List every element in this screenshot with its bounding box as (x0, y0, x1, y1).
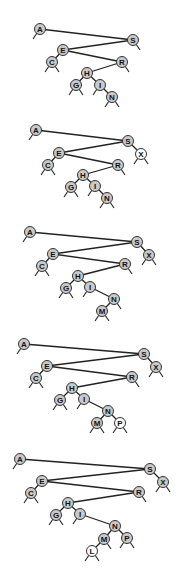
tree-node-E: E (42, 361, 53, 372)
node-key-label: C (33, 374, 39, 383)
null-link-stub (55, 66, 59, 72)
tree-node-N: N (103, 406, 114, 417)
tree-node-A: A (15, 454, 26, 465)
null-link-stub (121, 169, 125, 175)
tree-node-N: N (109, 294, 120, 305)
null-link-stub (34, 497, 38, 503)
tree-node-S: S (145, 464, 156, 475)
node-key-label: I (79, 510, 81, 519)
tree-node-E: E (48, 249, 59, 260)
node-key-label: S (125, 137, 131, 146)
tree-node-C: C (26, 488, 37, 499)
node-key-label: M (99, 307, 106, 316)
tree-node-N: N (107, 92, 118, 103)
node-key-label: P (124, 534, 130, 543)
node-key-label: N (111, 295, 117, 304)
tree-node-H: H (82, 68, 93, 79)
null-link-stub (115, 101, 119, 107)
null-link-stub (95, 555, 99, 561)
node-key-label: C (39, 262, 45, 271)
tree-node-C: C (47, 57, 58, 68)
node-key-label: X (146, 251, 152, 260)
tree-snapshot-2: ASXECRHGIN (29, 125, 148, 209)
null-link-stub (142, 496, 146, 502)
null-link-stub (79, 89, 83, 95)
tree-node-R: R (120, 259, 131, 270)
tree-node-P: P (115, 418, 126, 429)
tree-node-C: C (31, 373, 42, 384)
tree-node-P: P (122, 533, 133, 544)
node-key-label: N (112, 522, 118, 531)
null-link-stub (130, 542, 134, 548)
node-key-label: A (37, 25, 43, 34)
tree-edge (63, 50, 122, 62)
null-link-stub (74, 191, 78, 197)
tree-node-G: G (66, 182, 77, 193)
tree-node-X: X (136, 149, 147, 160)
tree-node-R: R (113, 160, 124, 171)
tree-edge (20, 459, 150, 469)
node-key-label: R (115, 161, 121, 170)
node-key-label: A (27, 228, 33, 237)
tree-node-G: G (71, 80, 82, 91)
tree-node-G: G (61, 283, 72, 294)
tree-node-C: C (43, 160, 54, 171)
tree-node-I: I (85, 282, 96, 293)
node-key-label: E (50, 250, 56, 259)
node-key-label: C (28, 489, 34, 498)
tree-edge (24, 344, 144, 354)
null-link-stub (73, 518, 77, 524)
null-link-stub (59, 519, 63, 525)
node-key-label: N (105, 407, 111, 416)
node-key-label: R (119, 58, 125, 67)
tree-edge (40, 29, 133, 40)
tree-node-S: S (132, 237, 143, 248)
node-key-label: C (49, 58, 55, 67)
node-key-label: I (83, 395, 85, 404)
null-link-stub (166, 486, 170, 492)
tree-node-C: C (37, 261, 48, 272)
node-key-label: N (104, 194, 110, 203)
node-key-label: R (136, 488, 142, 497)
null-link-stub (123, 427, 127, 433)
null-link-stub (152, 259, 156, 265)
tree-node-M: M (92, 418, 103, 429)
node-key-label: P (117, 419, 123, 428)
tree-node-H: H (73, 271, 84, 282)
node-key-label: E (56, 149, 62, 158)
tree-snapshot-5: ASXECRHGINMPL (13, 454, 170, 562)
tree-edge (47, 366, 132, 377)
tree-edge (78, 264, 125, 276)
tree-node-N: N (110, 521, 121, 532)
node-key-label: I (89, 283, 91, 292)
tree-node-R: R (117, 57, 128, 68)
node-key-label: H (69, 384, 75, 393)
node-key-label: A (17, 455, 23, 464)
node-key-label: H (75, 272, 81, 281)
tree-node-X: X (158, 477, 169, 488)
node-key-label: G (57, 396, 63, 405)
null-link-stub (107, 543, 111, 549)
tree-node-S: S (123, 136, 134, 147)
null-link-stub (105, 315, 109, 321)
node-key-label: S (130, 36, 136, 45)
null-link-stub (125, 66, 129, 72)
node-key-label: L (90, 547, 95, 556)
null-link-stub (63, 404, 67, 410)
node-key-label: H (65, 499, 71, 508)
tree-snapshot-4: ASXECRHGINMP (17, 339, 163, 434)
null-link-stub (77, 403, 81, 409)
null-link-stub (135, 381, 139, 387)
null-link-stub (69, 292, 73, 298)
tree-node-I: I (95, 80, 106, 91)
null-link-stub (93, 89, 97, 95)
tree-edge (53, 254, 125, 264)
node-key-label: S (134, 238, 140, 247)
tree-node-X: X (151, 362, 162, 373)
tree-node-G: G (55, 395, 66, 406)
tree-edge (42, 481, 139, 492)
node-key-label: I (99, 81, 101, 90)
tree-node-E: E (37, 476, 48, 487)
null-link-stub (83, 291, 87, 297)
node-key-label: E (44, 362, 50, 371)
